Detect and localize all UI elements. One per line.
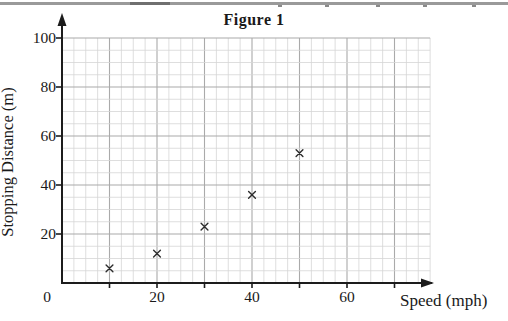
y-tick-label: 40 [22,176,56,194]
figure-page: Figure 1 Stopping Distance (m) 0 Speed (… [0,0,508,321]
origin-tick-label: 0 [40,288,54,306]
y-tick-label: 60 [22,127,56,145]
x-tick-label: 40 [232,288,272,306]
x-axis-arrowhead [421,279,434,288]
y-tick-label: 80 [22,78,56,96]
scatter-chart-canvas [0,0,508,321]
x-axis-title: Speed (mph) [400,291,504,311]
y-axis-arrowhead [58,13,67,26]
y-tick-label: 20 [22,225,56,243]
x-tick-label: 20 [137,288,177,306]
x-tick-label: 60 [327,288,367,306]
y-tick-label: 100 [22,29,56,47]
